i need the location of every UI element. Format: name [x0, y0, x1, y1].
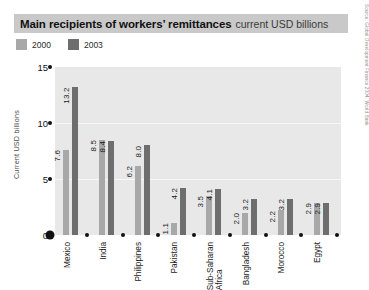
bar-rect: [242, 213, 248, 235]
x-axis-label-morocco: Morocco: [278, 242, 287, 273]
y-tick-dot-5: [48, 177, 52, 181]
y-tick-label-15: 15: [0, 62, 48, 73]
bar-rect: [72, 87, 78, 235]
chart-subtitle: current USD billions: [235, 18, 328, 30]
x-axis-separator-dot: [192, 233, 196, 237]
legend-label-2003: 2003: [84, 40, 103, 50]
x-axis-label-line: Philippines: [135, 242, 144, 282]
bar-rect: [171, 223, 177, 235]
y-tick-label-10: 10: [0, 118, 48, 129]
bar-value-label: 8.0: [133, 145, 142, 157]
x-axis-separator-dot: [264, 233, 268, 237]
bar-2003-philippines[interactable]: 8.0: [144, 67, 150, 235]
x-axis-label-line: Africa: [215, 242, 224, 290]
bar-2003-morocco[interactable]: 3.2: [287, 67, 293, 235]
bar-rect: [99, 140, 105, 235]
bar-rect: [278, 210, 284, 235]
x-axis-separator-dot: [156, 233, 160, 237]
bar-value-label: 3.2: [276, 199, 285, 211]
bar-value-label: 2.9: [303, 203, 312, 215]
bar-2003-sub-saharan-africa[interactable]: 4.1: [215, 67, 221, 235]
x-axis-label-sub-saharan-africa: Sub-SaharanAfrica: [207, 242, 224, 290]
x-axis-separator-dot: [228, 233, 232, 237]
y-tick-dot-15: [48, 65, 52, 69]
bar-2003-india[interactable]: 8.4: [108, 67, 114, 235]
bar-rect: [180, 188, 186, 235]
bar-rect: [251, 199, 257, 235]
x-axis-label-line: India: [100, 242, 109, 260]
bar-rect: [287, 199, 293, 235]
bar-rect: [215, 189, 221, 235]
bar-value-label: 1.1: [160, 223, 169, 235]
bar-2003-bangladesh[interactable]: 3.2: [251, 67, 257, 235]
bar-value-label: 8.5: [89, 140, 98, 152]
x-axis-label-mexico: Mexico: [64, 242, 73, 268]
bar-rect: [323, 203, 329, 235]
y-tick-label-0: 0: [0, 230, 48, 241]
bar-rect: [206, 196, 212, 235]
bar-group: 2.03.2: [242, 67, 258, 235]
bar-value-label: 4.1: [205, 189, 214, 201]
bar-group: 2.92.9: [313, 67, 329, 235]
x-axis-label-pakistan: Pakistan: [171, 242, 180, 273]
bar-2000-sub-saharan-africa[interactable]: 3.5: [206, 67, 212, 235]
bar-value-label: 4.2: [169, 188, 178, 200]
bar-group: 3.54.1: [206, 67, 222, 235]
bar-group: 6.28.0: [134, 67, 150, 235]
y-tick-dot-10: [48, 121, 52, 125]
bar-2003-mexico[interactable]: 13.2: [72, 67, 78, 235]
bar-2000-pakistan[interactable]: 1.1: [171, 67, 177, 235]
x-axis-label-egypt: Egypt: [314, 242, 323, 263]
x-axis-label-line: Morocco: [278, 242, 287, 273]
bar-2003-pakistan[interactable]: 4.2: [180, 67, 186, 235]
x-axis-label-bangladesh: Bangladesh: [243, 242, 252, 285]
legend-label-2000: 2000: [32, 40, 51, 50]
bar-2003-egypt[interactable]: 2.9: [323, 67, 329, 235]
chart-title-bar: Main recipients of workers’ remittances …: [14, 14, 348, 33]
bar-group: 8.58.4: [99, 67, 115, 235]
chart-title: Main recipients of workers’ remittances: [20, 18, 231, 30]
bar-rect: [135, 166, 141, 235]
x-axis-separator-dot: [299, 233, 303, 237]
legend-swatch-2000: [16, 39, 27, 50]
bar-group: 7.613.2: [63, 67, 79, 235]
x-axis-label-philippines: Philippines: [135, 242, 144, 282]
plot-area: 7.613.28.58.46.28.01.14.23.54.12.03.22.2…: [55, 67, 341, 235]
x-axis-label-line: Bangladesh: [243, 242, 252, 285]
x-axis-label-line: Mexico: [64, 242, 73, 268]
bar-rect: [144, 145, 150, 235]
x-axis-label-line: Egypt: [314, 242, 323, 263]
legend-swatch-2003: [68, 39, 79, 50]
bar-rect: [63, 150, 69, 235]
bar-value-label: 2.2: [267, 210, 276, 222]
bar-group: 2.23.2: [277, 67, 293, 235]
x-axis-separator-dot: [335, 233, 339, 237]
x-axis-separator-dot: [121, 233, 125, 237]
bar-value-label: 3.2: [241, 199, 250, 211]
bar-rect: [108, 141, 114, 235]
chart-area: Current USD billions 051015 7.613.28.58.…: [0, 60, 369, 290]
bar-value-label: 6.2: [124, 166, 133, 178]
bar-value-label: 2.0: [232, 213, 241, 225]
bar-value-label: 2.9: [312, 203, 321, 215]
legend-item-2000[interactable]: 2000: [16, 39, 51, 50]
legend-item-2003[interactable]: 2003: [68, 39, 103, 50]
x-axis-label-india: India: [100, 242, 109, 260]
chart-legend: 20002003: [16, 39, 113, 50]
bar-value-label: 7.6: [53, 150, 62, 162]
bar-value-label: 13.2: [62, 87, 71, 103]
y-tick-label-5: 5: [0, 174, 48, 185]
bar-value-label: 8.4: [98, 141, 107, 153]
x-axis-label-line: Pakistan: [171, 242, 180, 273]
bar-group: 1.14.2: [170, 67, 186, 235]
x-axis-separator-dot: [85, 233, 89, 237]
origin-dot: [46, 231, 55, 240]
